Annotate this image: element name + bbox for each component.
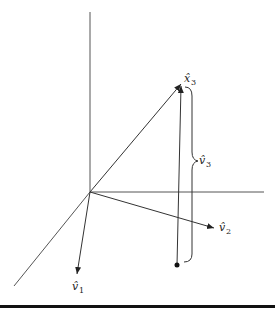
vertical-segment (177, 86, 181, 265)
vector-v1 (77, 192, 90, 274)
svg-text:3: 3 (206, 160, 211, 169)
vector-x3 (90, 84, 181, 192)
svg-text:x̂: x̂ (184, 72, 191, 85)
svg-text:v̂: v̂ (199, 154, 206, 167)
svg-text:v̂: v̂ (219, 221, 226, 234)
point-marker (175, 263, 180, 268)
vector-diagram: x̂ 3 v̂ 3 v̂ 2 v̂ 1 (0, 0, 275, 312)
label-x3: x̂ 3 (184, 72, 196, 87)
label-v2: v̂ 2 (219, 221, 231, 236)
svg-text:v̂: v̂ (72, 280, 79, 293)
bottom-rule (0, 305, 275, 308)
curly-brace (184, 87, 198, 262)
diagonal-axis (14, 192, 90, 286)
label-v1: v̂ 1 (72, 280, 84, 295)
svg-text:3: 3 (191, 78, 196, 87)
vector-v2 (90, 192, 214, 228)
svg-text:2: 2 (226, 227, 231, 236)
label-v3: v̂ 3 (199, 154, 211, 169)
svg-text:1: 1 (79, 286, 84, 295)
